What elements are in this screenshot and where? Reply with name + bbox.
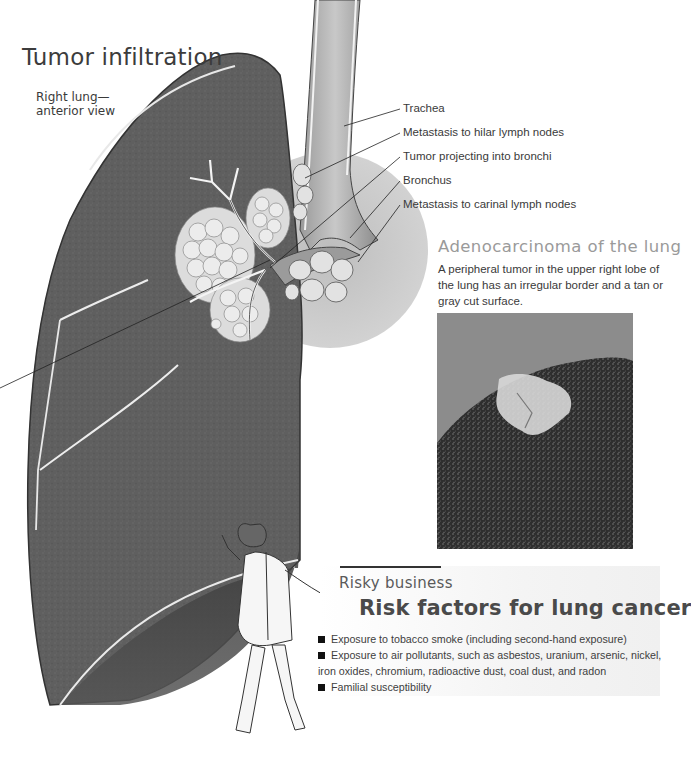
label-tumor-bronchi: Tumor projecting into bronchi	[403, 150, 552, 162]
tumor-photo	[437, 313, 633, 549]
risk-kicker: Risky business	[339, 574, 453, 592]
list-item: Familial susceptibility	[318, 679, 663, 695]
adenocarcinoma-heading: Adenocarcinoma of the lung	[438, 237, 681, 256]
page-title: Tumor infiltration	[22, 44, 222, 70]
label-trachea: Trachea	[403, 102, 445, 114]
label-carinal-metastasis: Metastasis to carinal lymph nodes	[403, 198, 576, 210]
square-bullet-icon	[318, 636, 325, 643]
square-bullet-icon	[318, 652, 325, 659]
section-divider	[340, 566, 441, 568]
risk-factors-heading: Risk factors for lung cancer	[359, 596, 691, 620]
square-bullet-icon	[318, 684, 325, 691]
view-caption: Right lung— anterior view	[36, 90, 115, 118]
adenocarcinoma-description: A peripheral tumor in the upper right lo…	[438, 261, 668, 309]
list-item: Exposure to air pollutants, such as asbe…	[318, 647, 663, 679]
label-bronchus: Bronchus	[403, 174, 452, 186]
label-hilar-metastasis: Metastasis to hilar lymph nodes	[403, 126, 564, 138]
risk-factors-list: Exposure to tobacco smoke (including sec…	[318, 631, 663, 695]
list-item: Exposure to tobacco smoke (including sec…	[318, 631, 663, 647]
